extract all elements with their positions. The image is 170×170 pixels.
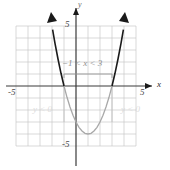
coordinate-plane-svg	[0, 0, 170, 170]
parabola-left-arrow-icon	[47, 12, 57, 23]
y-axis-arrow-icon	[73, 8, 79, 15]
parabola-right-arrow-icon	[119, 12, 129, 23]
x-axis-arrow-icon	[145, 83, 152, 89]
graph-figure: x y -5 5 5 -5 −1 < x < 3 y < 0 y < 0	[0, 0, 170, 170]
